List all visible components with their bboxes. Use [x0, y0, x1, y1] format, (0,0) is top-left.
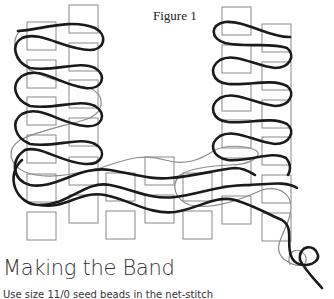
section-heading: Making the Band: [3, 256, 174, 280]
bead: [183, 211, 212, 239]
bead-pattern-diagram: [0, 0, 334, 299]
bead: [106, 211, 135, 239]
bead: [27, 174, 56, 202]
figure-title: Figure 1: [153, 8, 197, 24]
section-body-text: Use size 11/0 seed beads in the net-stit…: [3, 289, 213, 299]
bead: [27, 212, 56, 240]
